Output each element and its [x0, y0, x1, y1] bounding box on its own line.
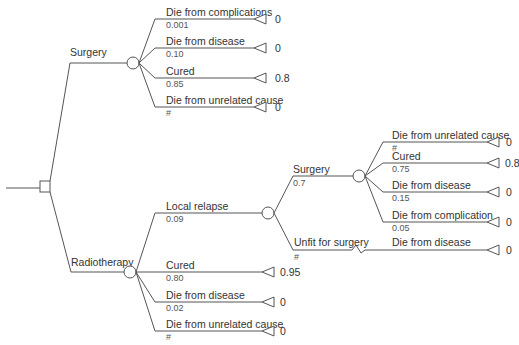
- payoff: 0: [275, 13, 281, 25]
- branch-prob: 0.05: [392, 223, 410, 233]
- payoff: 0.95: [280, 266, 301, 278]
- terminal-node-icon: [487, 245, 499, 255]
- payoff: 0: [275, 101, 281, 113]
- branch-label: Die from disease: [392, 179, 471, 191]
- decision-tree: Surgery Die from complications 0.001 0 D…: [0, 0, 519, 345]
- branch-prob: 0.75: [392, 164, 410, 174]
- terminal-node-icon: [254, 43, 266, 53]
- branch-prob: 0.09: [166, 214, 184, 224]
- terminal-node-icon: [254, 73, 266, 83]
- sub-branch-1: [365, 142, 487, 176]
- chance-node-surgery: [127, 57, 139, 69]
- branch-prob: #: [166, 332, 171, 342]
- surgery-branch-2: [139, 48, 254, 63]
- chance-node-relapse-surgery: [353, 170, 365, 182]
- payoff: 0: [506, 244, 512, 256]
- branch-prob: #: [294, 252, 299, 262]
- payoff: 0.8: [505, 157, 519, 169]
- decision-node: [40, 181, 50, 192]
- branch-prob: 0.15: [392, 193, 410, 203]
- terminal-node-icon: [487, 187, 499, 197]
- chance-node-radiotherapy: [124, 266, 136, 278]
- payoff: 0: [280, 325, 286, 337]
- branch-label: Die from complications: [166, 6, 272, 18]
- sub-branch-2: [365, 163, 487, 176]
- branch-label: Die from unrelated cause: [166, 318, 283, 330]
- branch-prob: 0.10: [166, 49, 184, 59]
- terminal-node-icon: [262, 267, 274, 277]
- terminal-node-icon: [487, 158, 499, 168]
- branch-label: Cured: [166, 259, 195, 271]
- branch-prob: 0.02: [166, 303, 184, 313]
- payoff: 0: [506, 186, 512, 198]
- branch-prob: 0.7: [293, 178, 306, 188]
- branch-prob: 0.80: [166, 273, 184, 283]
- payoff: 0: [506, 136, 512, 148]
- chance-node-local-relapse: [262, 207, 274, 219]
- branch-label: Surgery: [293, 163, 331, 175]
- payoff: 0: [280, 296, 286, 308]
- branch-label: Die from disease: [166, 289, 245, 301]
- branch-prob: 0.001: [166, 20, 189, 30]
- branch-label: Die from unrelated cause: [392, 129, 509, 141]
- option-radiotherapy-label: Radiotherapy: [71, 256, 134, 268]
- relapse-branch-surgery: [274, 176, 353, 213]
- payoff: 0: [506, 216, 512, 228]
- branch-label: Local relapse: [166, 200, 229, 212]
- branch-label: Die from disease: [166, 35, 245, 47]
- branch-label: Unfit for surgery: [294, 236, 369, 248]
- branch-surgery: [50, 63, 127, 181]
- branch-prob: 0.85: [166, 79, 184, 89]
- option-surgery-label: Surgery: [70, 46, 108, 58]
- branch-prob: #: [166, 108, 171, 118]
- payoff: 0: [275, 42, 281, 54]
- surgery-branch-3: [139, 63, 254, 78]
- terminal-node-icon: [262, 297, 274, 307]
- branch-label: Die from complication: [392, 209, 493, 221]
- branch-label: Die from disease: [392, 236, 471, 248]
- branch-label: Cured: [166, 65, 195, 77]
- payoff: 0.8: [275, 72, 290, 84]
- radio-branch-local-relapse: [136, 213, 262, 272]
- branch-label: Cured: [392, 150, 421, 162]
